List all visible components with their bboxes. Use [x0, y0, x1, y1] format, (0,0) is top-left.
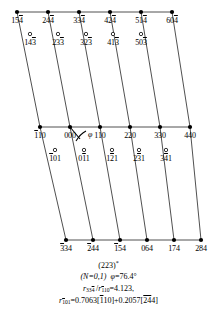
lattice-point-label: 514 — [135, 16, 147, 25]
lattice-point-filled — [139, 10, 143, 14]
caption-line-vector: r101=0.7063[110]+0.2057[244] — [0, 295, 217, 308]
lattice-point-open — [164, 148, 167, 151]
connector-line — [190, 127, 201, 240]
lattice-point-label: 334 — [60, 244, 72, 253]
lattice-point-filled — [188, 125, 192, 129]
lattice-point-filled — [172, 238, 176, 242]
lattice-point-filled — [46, 10, 50, 14]
lattice-point-filled — [145, 238, 149, 242]
lattice-point-filled — [199, 238, 203, 242]
lattice-point-open — [84, 32, 87, 35]
connector-line — [172, 12, 190, 127]
connector-line — [70, 127, 93, 240]
lattice-point-open — [56, 32, 59, 35]
lattice-point-label: 244 — [42, 16, 54, 25]
lattice-point-label: 154 — [114, 244, 126, 253]
lattice-point-label: 323 — [80, 38, 92, 47]
lattice-point-filled — [128, 125, 132, 129]
caption-line-plane: (223)* — [0, 258, 217, 271]
lattice-point-label: 064 — [141, 244, 153, 253]
lattice-point-label: 424 — [104, 16, 116, 25]
connector-line — [79, 12, 100, 127]
lattice-point-label: 341 — [160, 154, 172, 163]
lattice-point-label: 231 — [133, 154, 145, 163]
lattice-point-label: 244 — [87, 244, 99, 253]
lattice-point-filled — [91, 238, 95, 242]
lattice-point-open — [28, 32, 31, 35]
caption-plane-indices: (223) — [98, 261, 115, 270]
lattice-point-filled — [170, 10, 174, 14]
caption-phi-value: =76.4° — [115, 272, 137, 281]
connector-line — [130, 127, 147, 240]
ratio-denominator-sub: 110 — [101, 287, 109, 293]
connector-line — [100, 127, 120, 240]
vector-r-sub: 101 — [62, 299, 70, 305]
vector-body-a: =0.7063[ — [71, 296, 100, 305]
lattice-point-open — [82, 148, 85, 151]
lattice-point-label: 143 — [24, 38, 36, 47]
lattice-point-filled — [98, 125, 102, 129]
vector-body-c: ] — [155, 296, 158, 305]
lattice-point-label: 220 — [124, 131, 136, 140]
lattice-point-label: 330 — [154, 131, 166, 140]
ratio-value: =4.123, — [110, 284, 135, 293]
connector-line — [17, 12, 40, 127]
lattice-point-open — [139, 32, 142, 35]
lattice-point-label: 101 — [49, 154, 61, 163]
lattice-point-filled — [64, 238, 68, 242]
connector-line — [141, 12, 160, 127]
lattice-point-label: 413 — [107, 38, 119, 47]
lattice-point-open — [53, 148, 56, 151]
lattice-point-label: 110 — [94, 131, 105, 140]
lattice-point-label: 154 — [11, 16, 23, 25]
lattice-point-filled — [15, 10, 19, 14]
lattice-point-open — [110, 148, 113, 151]
phi-angle-label: φ — [88, 130, 92, 139]
lattice-point-label: 604 — [166, 16, 178, 25]
connector-line — [40, 127, 66, 240]
connector-line — [110, 12, 130, 127]
ratio-numerator-sub: 334 — [86, 287, 94, 293]
lattice-point-label: 000 — [64, 131, 76, 140]
lattice-point-open — [111, 32, 114, 35]
lattice-point-label: 233 — [52, 38, 64, 47]
lattice-point-filled — [77, 10, 81, 14]
lattice-point-label: 011 — [78, 154, 89, 163]
connector-line — [48, 12, 70, 127]
lattice-point-label: 174 — [168, 244, 180, 253]
vector-body-b: ]+0.2057[ — [111, 296, 143, 305]
lattice-point-label: 110 — [34, 131, 45, 140]
lattice-point-open — [137, 148, 140, 151]
lattice-point-label: 334 — [73, 16, 85, 25]
lattice-point-filled — [108, 10, 112, 14]
lattice-point-filled — [118, 238, 122, 242]
lattice-point-label: 121 — [106, 154, 118, 163]
caption-plane-star: * — [116, 260, 119, 266]
caption-n-value: (N=0,1) — [80, 272, 106, 281]
lattice-point-label: 503 — [135, 38, 147, 47]
reciprocal-lattice-figure: 1542443344245146041432333234135031100001… — [0, 0, 217, 318]
connector-line — [160, 127, 174, 240]
lattice-point-label: 440 — [184, 131, 196, 140]
lattice-point-filled — [38, 125, 42, 129]
lattice-point-filled — [158, 125, 162, 129]
caption-line-n-phi: (N=0,1) φ=76.4° — [0, 271, 217, 282]
lattice-point-label: 284 — [195, 244, 207, 253]
